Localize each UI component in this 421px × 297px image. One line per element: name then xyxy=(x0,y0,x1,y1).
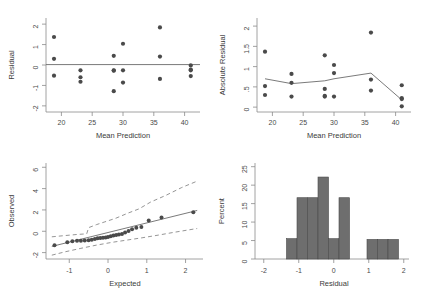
x-tick-label: 2 xyxy=(184,267,188,274)
x-axis-title: Residual xyxy=(319,279,349,288)
data-point xyxy=(189,63,193,67)
panel-absolute-residual-vs-mean-prediction: 0.511.52 2025303540 Absolute Residual Me… xyxy=(211,0,421,148)
x-axis-title: Mean Prediction xyxy=(307,131,361,140)
data-point xyxy=(83,238,87,242)
normal-quantile-svg: -20246 -1012 Observed Expected xyxy=(0,149,210,297)
residual-vs-prediction-svg: -2-1012 2025303540 Residual Mean Predict… xyxy=(0,0,210,148)
data-point xyxy=(52,57,56,61)
x-tick-group: 2025303540 xyxy=(58,112,189,126)
panel-residual-vs-mean-prediction: -2-1012 2025303540 Residual Mean Predict… xyxy=(0,0,210,148)
y-axis-title: Residual xyxy=(7,50,16,80)
histogram-bar xyxy=(287,239,298,259)
data-point xyxy=(160,215,164,219)
x-tick-label: 35 xyxy=(361,119,369,126)
x-tick-group: -2-1012 xyxy=(261,259,406,274)
data-point xyxy=(65,240,69,244)
y-tick-label: .5 xyxy=(243,86,250,92)
x-tick-label: -1 xyxy=(296,267,302,274)
data-point xyxy=(127,229,131,233)
data-point xyxy=(130,227,134,231)
data-point-group xyxy=(52,25,193,93)
data-point xyxy=(75,239,79,243)
confidence-band-group xyxy=(52,181,197,255)
data-point xyxy=(189,68,193,72)
x-tick-group: 2025303540 xyxy=(269,112,400,126)
x-tick-label: 0 xyxy=(332,267,336,274)
y-tick-label: 0 xyxy=(32,65,39,69)
y-axis-title: Absolute Residual xyxy=(218,34,227,95)
x-tick-label: 30 xyxy=(119,119,127,126)
x-tick-label: 2 xyxy=(402,267,406,274)
data-point xyxy=(400,104,404,108)
y-tick-label: -2 xyxy=(32,105,39,111)
data-point xyxy=(369,77,373,81)
data-point xyxy=(121,80,125,84)
data-point-group xyxy=(263,30,404,108)
data-point xyxy=(121,42,125,46)
histogram-bar xyxy=(367,239,378,259)
y-tick-label: 5 xyxy=(241,241,248,245)
data-point xyxy=(134,226,138,230)
histogram-bar xyxy=(339,198,350,259)
data-point xyxy=(158,25,162,29)
y-tick-label: 1 xyxy=(32,45,39,49)
data-point xyxy=(112,89,116,93)
y-tick-label: 20 xyxy=(241,184,248,192)
histogram-bar xyxy=(388,239,399,259)
x-tick-label: 20 xyxy=(58,119,66,126)
y-tick-label: 0 xyxy=(243,108,250,112)
x-tick-group: -1012 xyxy=(66,259,187,274)
plot-axes xyxy=(46,163,203,259)
histogram-bar xyxy=(297,198,308,259)
y-tick-label: -1 xyxy=(32,85,39,91)
residual-histogram-svg: 0510152025 -2-1012 Percent Residual xyxy=(211,149,421,297)
data-point xyxy=(78,68,82,72)
data-point xyxy=(53,243,57,247)
y-tick-group: -2-1012 xyxy=(32,24,46,111)
y-axis-title: Percent xyxy=(217,197,226,224)
y-tick-group: -20246 xyxy=(32,167,46,258)
data-point xyxy=(369,30,373,34)
data-point xyxy=(289,72,293,76)
data-point xyxy=(139,225,143,229)
x-axis-title: Mean Prediction xyxy=(96,131,150,140)
y-tick-label: 0 xyxy=(241,259,248,263)
data-point xyxy=(400,97,404,101)
x-tick-label: 40 xyxy=(392,119,400,126)
x-tick-label: 1 xyxy=(145,267,149,274)
x-tick-label: 1 xyxy=(367,267,371,274)
data-point xyxy=(323,95,327,99)
data-point xyxy=(147,218,151,222)
y-tick-group: 0.511.52 xyxy=(243,26,257,111)
data-point xyxy=(52,74,56,78)
data-point xyxy=(70,239,74,243)
data-point xyxy=(332,63,336,67)
histogram-bar xyxy=(318,177,329,259)
x-axis-title: Expected xyxy=(109,279,140,288)
data-point xyxy=(323,87,327,91)
data-point xyxy=(112,54,116,58)
x-tick-label: 30 xyxy=(330,119,338,126)
data-point xyxy=(158,55,162,59)
x-tick-label: 20 xyxy=(269,119,277,126)
x-tick-label: 25 xyxy=(299,119,307,126)
data-point xyxy=(369,88,373,92)
y-tick-label: 2 xyxy=(32,25,39,29)
y-tick-label: -2 xyxy=(32,252,39,258)
diagnostic-figure: -2-1012 2025303540 Residual Mean Predict… xyxy=(0,0,421,297)
data-point xyxy=(263,84,267,88)
histogram-bar xyxy=(329,239,340,259)
x-tick-label: 0 xyxy=(106,267,110,274)
data-point xyxy=(189,74,193,78)
y-axis-title: Observed xyxy=(7,195,16,228)
x-tick-label: -1 xyxy=(66,267,72,274)
data-point xyxy=(263,93,267,97)
data-point xyxy=(112,68,116,72)
histogram-bar-group xyxy=(287,177,399,259)
y-tick-label: 2 xyxy=(243,27,250,31)
y-tick-label: 4 xyxy=(32,189,39,193)
y-tick-label: 0 xyxy=(32,232,39,236)
y-tick-label: 10 xyxy=(241,221,248,229)
data-point xyxy=(79,239,83,243)
data-point xyxy=(121,68,125,72)
